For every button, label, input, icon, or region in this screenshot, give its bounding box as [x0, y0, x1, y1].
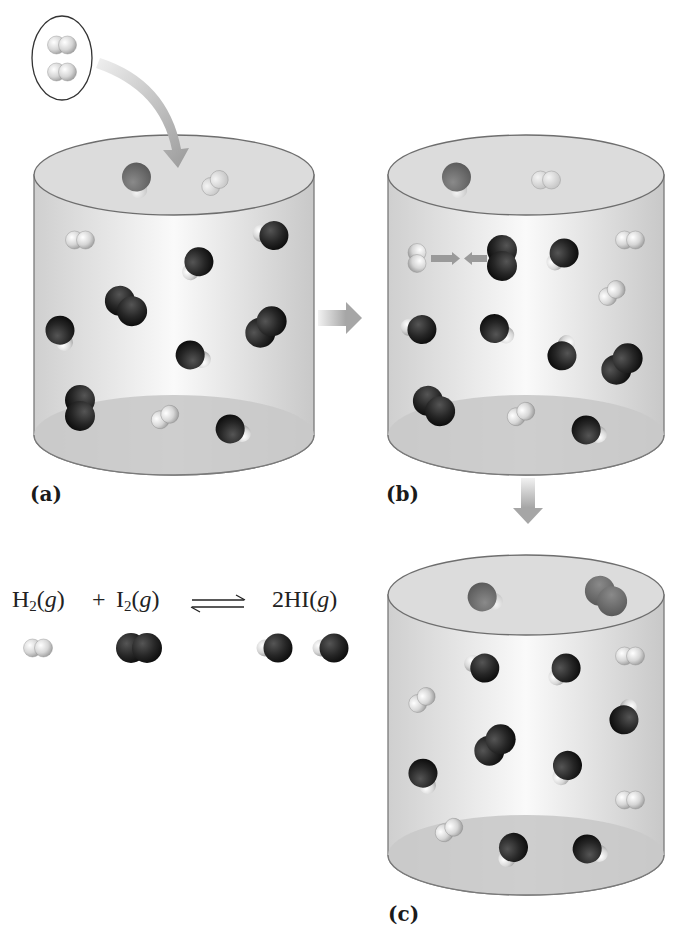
h2-molecule-icon [66, 231, 95, 249]
cylinder-a [34, 135, 314, 475]
equilibrium-figure [0, 0, 676, 938]
h2-molecule-icon [616, 791, 645, 809]
h2-molecule-icon [616, 231, 645, 249]
cylinder-lid [388, 135, 664, 215]
hi-molecule-icon [257, 634, 293, 663]
cylinder-c [388, 555, 664, 895]
added-h2-callout [32, 16, 92, 100]
h2-molecule-icon [616, 647, 645, 665]
hi-molecule-icon [313, 634, 349, 663]
panel-label-a: (a) [30, 482, 62, 506]
h2-molecule-icon [408, 244, 426, 273]
i2-molecule-icon [116, 633, 162, 663]
callout-ellipse [32, 16, 92, 100]
panel-label-c: (c) [388, 902, 419, 926]
legend-molecules [24, 633, 349, 663]
plus-sign: + [92, 586, 106, 613]
cylinders [34, 135, 664, 895]
reaction-equation: H2(g) + I2(g) 2HI(g) [6, 586, 366, 626]
reactant-h2: H2(g) [12, 586, 65, 615]
h2-molecule-icon [24, 639, 53, 657]
h2-molecule-icon [48, 63, 77, 81]
cylinder-b [388, 135, 664, 475]
h2-molecule-icon [532, 171, 561, 189]
i2-molecule-icon [487, 235, 517, 281]
arrow-a-to-b [318, 302, 362, 334]
i2-molecule-icon [65, 385, 95, 431]
arrow-b-to-c [513, 478, 543, 524]
panel-label-b: (b) [386, 482, 419, 506]
reactant-i2: I2(g) [116, 586, 160, 615]
product-hi: 2HI(g) [272, 586, 337, 613]
h2-molecule-icon [48, 36, 77, 54]
